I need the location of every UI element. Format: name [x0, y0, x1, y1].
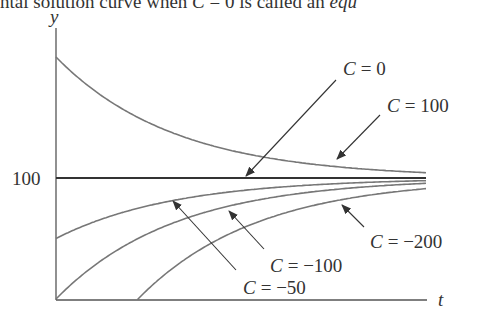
y-axis-label: y [48, 6, 59, 27]
chart: y t 100 C= 0 C= 100 C= −200 C= −100 C= −… [0, 0, 482, 322]
curve--50 [56, 181, 426, 239]
label-c0: C= 0 [343, 58, 386, 79]
label-c-50: C= −50 [243, 277, 306, 298]
arrow-c-100 [229, 211, 264, 249]
label-c100: C= 100 [387, 95, 449, 116]
x-axis-label: t [438, 289, 444, 310]
arrow-c-200 [342, 205, 364, 227]
label-c-100: C= −100 [270, 255, 342, 276]
arrow-c100 [337, 115, 380, 159]
curves [56, 57, 426, 300]
label-c-200: C= −200 [370, 231, 442, 252]
y-tick-100: 100 [12, 168, 41, 189]
